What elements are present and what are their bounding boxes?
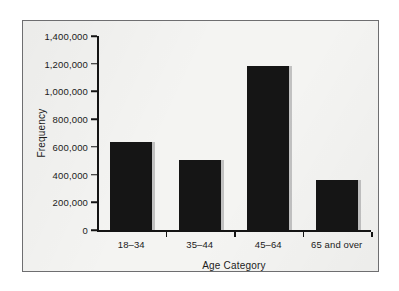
y-axis-tick	[91, 229, 97, 231]
bar	[179, 160, 221, 230]
x-axis-category-label: 18–34	[97, 239, 166, 250]
y-axis-tick-label: 800,000	[53, 114, 88, 125]
x-axis-tick	[234, 232, 236, 237]
x-axis-tick	[371, 232, 373, 237]
y-axis-tick	[91, 174, 97, 176]
y-axis-line	[97, 36, 99, 230]
y-axis-tick	[91, 118, 97, 120]
x-axis-category-label: 65 and over	[303, 239, 372, 250]
y-axis-tick-label: 0	[83, 225, 88, 236]
y-axis-tick-label: 1,000,000	[44, 86, 88, 97]
x-axis-title: Age Category	[97, 260, 371, 271]
bar	[110, 142, 152, 230]
y-axis-tick-label: 400,000	[53, 169, 88, 180]
y-axis-tick	[91, 91, 97, 93]
y-axis-tick	[91, 146, 97, 148]
figure-frame: 0200,000400,000600,000800,0001,000,0001,…	[22, 20, 379, 272]
x-axis-category-label: 45–64	[234, 239, 303, 250]
y-axis-tick-label: 1,400,000	[44, 31, 88, 42]
x-axis-category-label: 35–44	[166, 239, 235, 250]
bar	[247, 66, 289, 230]
x-axis-tick	[303, 232, 305, 237]
x-axis-tick	[166, 232, 168, 237]
y-axis-tick	[91, 63, 97, 65]
y-axis-tick	[91, 202, 97, 204]
y-axis-tick-label: 600,000	[53, 141, 88, 152]
bar	[316, 180, 358, 230]
y-axis-title: Frequency	[36, 108, 47, 157]
plot-area: 0200,000400,000600,000800,0001,000,0001,…	[97, 36, 371, 230]
y-axis-tick	[91, 35, 97, 37]
y-axis-tick-label: 1,200,000	[44, 58, 88, 69]
y-axis-tick-label: 200,000	[53, 197, 88, 208]
